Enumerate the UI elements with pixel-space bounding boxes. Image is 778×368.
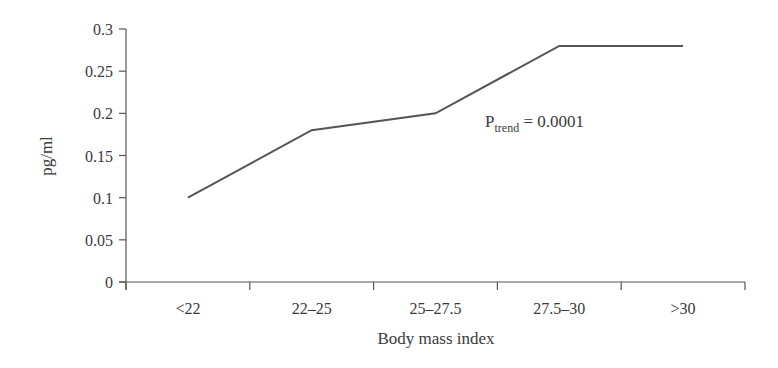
- y-tick-label: 0.05: [85, 232, 113, 249]
- y-axis: 00.050.10.150.20.250.3: [85, 21, 126, 291]
- x-tick-label: 22–25: [292, 300, 332, 317]
- y-tick-label: 0.25: [85, 63, 113, 80]
- annotation-subscript: trend: [494, 121, 519, 135]
- x-axis: <2222–2525–27.527.5–30>30: [119, 282, 745, 317]
- x-tick-label: 27.5–30: [533, 300, 585, 317]
- annotation-p: P: [485, 112, 494, 131]
- data-line: [188, 46, 683, 198]
- x-axis-title: Body mass index: [377, 329, 495, 348]
- x-tick-label: 25–27.5: [410, 300, 462, 317]
- y-axis-title: pg/ml: [37, 136, 56, 176]
- line-chart: 00.050.10.150.20.250.3 <2222–2525–27.527…: [0, 0, 778, 368]
- x-tick-label: <22: [175, 300, 200, 317]
- y-tick-label: 0: [105, 274, 113, 291]
- y-tick-label: 0.3: [93, 21, 113, 38]
- annotation-value: = 0.0001: [519, 112, 584, 131]
- y-tick-label: 0.1: [93, 190, 113, 207]
- y-tick-label: 0.15: [85, 148, 113, 165]
- y-tick-label: 0.2: [93, 105, 113, 122]
- x-tick-label: >30: [671, 300, 696, 317]
- p-trend-annotation: Ptrend = 0.0001: [485, 112, 584, 135]
